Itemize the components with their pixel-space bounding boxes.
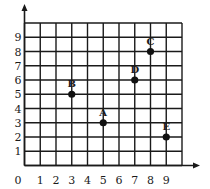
axes	[22, 4, 201, 169]
x-axis-tick-labels: 0123456789	[15, 174, 170, 187]
point-marker-icon	[147, 48, 154, 55]
point-label: B	[68, 78, 76, 89]
y-tick-label: 3	[15, 117, 22, 130]
y-tick-label: 4	[15, 103, 22, 116]
point-marker-icon	[163, 133, 170, 140]
x-axis-arrow-icon	[193, 163, 200, 169]
x-tick-label: 2	[53, 174, 60, 187]
y-tick-label: 1	[15, 145, 22, 158]
point-marker-icon	[100, 119, 107, 126]
y-tick-label: 7	[15, 60, 22, 73]
data-point-b: B	[68, 78, 76, 98]
x-tick-label: 1	[37, 174, 44, 187]
point-label: D	[130, 64, 139, 75]
x-tick-label: 3	[68, 174, 75, 187]
y-tick-label: 6	[15, 74, 22, 87]
x-tick-label: 9	[163, 174, 170, 187]
point-label: C	[147, 36, 155, 47]
point-label: E	[162, 121, 170, 132]
point-marker-icon	[68, 91, 75, 98]
point-label: A	[98, 107, 107, 118]
y-axis-tick-labels: 123456789	[15, 31, 22, 158]
y-tick-label: 9	[15, 31, 22, 44]
x-tick-label: 5	[100, 174, 107, 187]
data-point-d: D	[130, 64, 139, 84]
x-tick-label: 6	[116, 174, 123, 187]
x-tick-label: 0	[15, 174, 22, 187]
y-tick-label: 2	[15, 131, 22, 144]
x-tick-label: 4	[84, 174, 91, 187]
data-point-a: A	[98, 107, 107, 127]
grid-lines	[25, 23, 183, 166]
coordinate-grid-chart: 0123456789 123456789 ABCDE	[0, 0, 210, 189]
data-point-c: C	[147, 36, 155, 56]
point-marker-icon	[131, 76, 138, 83]
y-tick-label: 5	[15, 88, 22, 101]
x-tick-label: 7	[131, 174, 138, 187]
y-axis-arrow-icon	[22, 4, 28, 11]
y-tick-label: 8	[15, 46, 22, 59]
x-tick-label: 8	[147, 174, 154, 187]
data-point-e: E	[162, 121, 170, 141]
